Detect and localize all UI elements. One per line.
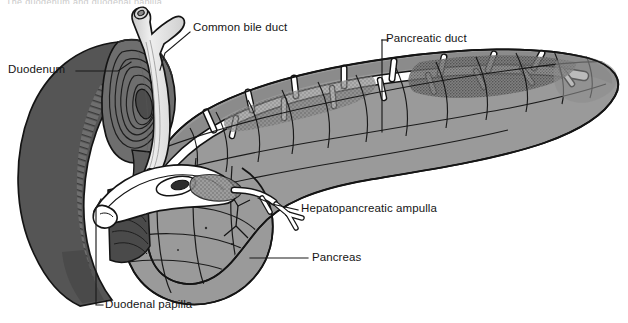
- anatomy-figure: The duodenum and duodenal papilla: [0, 0, 628, 323]
- anatomy-illustration: [0, 0, 628, 323]
- label-duodenal-papilla: Duodenal papilla: [105, 299, 192, 311]
- label-pancreas: Pancreas: [312, 252, 361, 264]
- label-duodenum: Duodenum: [8, 64, 65, 76]
- label-pancreatic-duct: Pancreatic duct: [386, 33, 467, 45]
- label-common-bile-duct: Common bile duct: [193, 22, 287, 34]
- label-hepatopancreatic-ampulla: Hepatopancreatic ampulla: [301, 203, 437, 215]
